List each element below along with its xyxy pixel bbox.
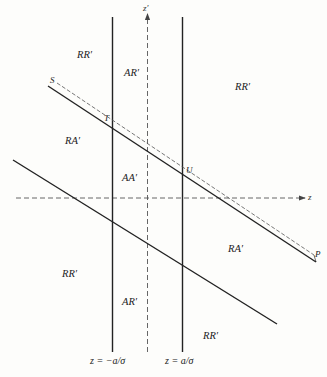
lower-diagonal-line [13, 160, 277, 324]
z-axis-label: z [308, 193, 312, 202]
point-t-label: T [104, 114, 109, 123]
region-rr-bottom-left: RR′ [62, 269, 77, 280]
region-rr-bottom-right: RR′ [203, 331, 218, 342]
left-boundary-label: z = −a/σ [90, 356, 125, 366]
point-u-label: U [186, 166, 193, 175]
region-ar-bottom: AR′ [122, 297, 137, 308]
diagram-canvas [0, 0, 327, 377]
region-ra-right: RA′ [228, 244, 243, 255]
region-ra-left: RA′ [65, 136, 80, 147]
point-p-label: P [315, 250, 321, 259]
region-ar-top: AR′ [124, 68, 139, 79]
z-prime-axis-label: z′ [143, 4, 148, 13]
right-boundary-label: z = a/σ [165, 356, 193, 366]
region-rr-top-left: RR′ [77, 50, 92, 61]
point-s-label: S [50, 76, 55, 85]
region-rr-top-right: RR′ [235, 82, 250, 93]
region-aa-center: AA′ [122, 173, 137, 184]
